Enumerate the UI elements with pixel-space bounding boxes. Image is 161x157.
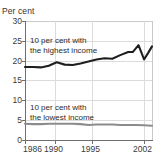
y-tick-mark-20 xyxy=(22,61,25,62)
gridline-y-15 xyxy=(25,80,152,81)
low-income-line xyxy=(25,124,152,126)
y-tick-label-30: 30 xyxy=(2,17,22,26)
x-tick-mark-1990 xyxy=(55,141,56,144)
x-tick-label-2002: 2002 xyxy=(133,145,152,154)
y-axis-title: Per cent xyxy=(2,6,34,16)
x-tick-mark-2002 xyxy=(144,141,145,144)
y-tick-mark-5 xyxy=(22,120,25,121)
y-tick-label-10: 10 xyxy=(2,96,22,105)
y-tick-mark-10 xyxy=(22,100,25,101)
y-tick-label-0: 0 xyxy=(2,136,22,145)
x-axis-line xyxy=(25,140,153,141)
y-tick-label-5: 5 xyxy=(2,116,22,125)
low-income-annotation: 10 per cent with the lowest income xyxy=(30,103,94,122)
x-tick-mark-1995 xyxy=(92,141,93,144)
x-tick-label-1990: 1990 xyxy=(44,145,63,154)
low-income-annotation-line2: the lowest income xyxy=(30,113,94,123)
y-tick-label-15: 15 xyxy=(2,76,22,85)
x-tick-label-1995: 1995 xyxy=(81,145,100,154)
y-tick-mark-25 xyxy=(22,41,25,42)
clipped-header-text xyxy=(22,0,142,4)
y-tick-mark-30 xyxy=(22,21,25,22)
y-tick-label-25: 25 xyxy=(2,37,22,46)
y-axis-line xyxy=(25,21,26,141)
income-share-line-chart: Per cent 30 25 20 15 10 5 0 1986 1990 19… xyxy=(0,0,161,157)
high-income-annotation-line2: the highest income xyxy=(30,46,97,56)
high-income-annotation: 10 per cent with the highest income xyxy=(30,36,97,55)
gridline-y-10 xyxy=(25,100,152,101)
gridline-y-20 xyxy=(25,61,152,62)
x-tick-label-1986: 1986 xyxy=(23,145,42,154)
x-tick-mark-1986 xyxy=(25,141,26,144)
low-income-annotation-line1: 10 per cent with xyxy=(30,103,94,113)
gridline-x-2002 xyxy=(144,21,145,140)
y-tick-label-20: 20 xyxy=(2,57,22,66)
high-income-annotation-line1: 10 per cent with xyxy=(30,36,97,46)
plot-frame-right xyxy=(152,21,153,141)
plot-frame-top xyxy=(25,21,153,22)
y-tick-mark-15 xyxy=(22,80,25,81)
